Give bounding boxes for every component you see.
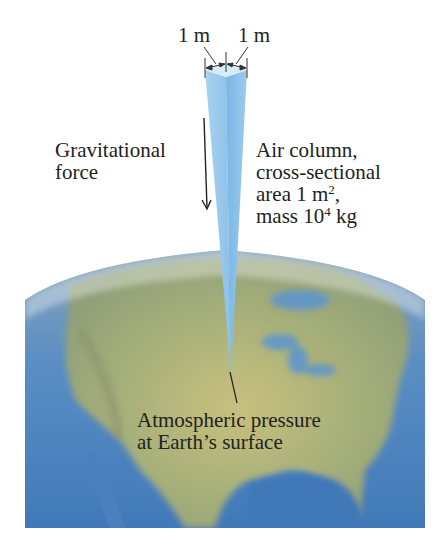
earth-globe [0,240,442,540]
surface-line-2: at Earth’s surface [137,431,321,453]
gravitational-force-label: Gravitational force [55,139,166,183]
surface-line-1: Atmospheric pressure [137,409,321,431]
dimension-label-left: 1 m [178,24,210,46]
atmospheric-pressure-label: Atmospheric pressure at Earth’s surface [137,409,321,453]
air-column-label: Air column, cross-sectional area 1 m2, m… [256,139,381,227]
column-line-4: mass 104 kg [256,205,381,227]
column-line-1: Air column, [256,139,381,161]
column-line-2: cross-sectional [256,161,381,183]
column-line-3: area 1 m2, [256,183,381,205]
down-arrow-icon [202,118,211,209]
diagram-graphics [0,0,442,543]
gravity-line-2: force [55,161,166,183]
gravity-line-1: Gravitational [55,139,166,161]
dimension-label-right: 1 m [238,24,270,46]
